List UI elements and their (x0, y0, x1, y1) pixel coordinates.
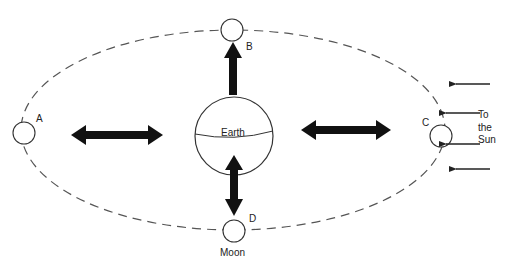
arrow-double-horizontal-right (301, 120, 391, 140)
moon-b (221, 19, 243, 41)
orbit-diagram (0, 0, 518, 269)
moon-label: Moon (220, 247, 245, 258)
moon-d (223, 220, 245, 242)
sun-text-line1: To (478, 109, 496, 122)
arrow-up-to-b (224, 42, 242, 95)
label-c: C (422, 117, 429, 128)
earth-label: Earth (221, 127, 245, 138)
label-a: A (36, 113, 43, 124)
sun-text-line3: Sun (478, 134, 496, 147)
to-the-sun-label: To the Sun (478, 109, 496, 147)
moon-a (13, 122, 35, 144)
arrow-double-horizontal-left (71, 125, 163, 145)
label-d: D (249, 213, 256, 224)
label-b: B (246, 41, 253, 52)
sun-text-line2: the (478, 122, 496, 135)
